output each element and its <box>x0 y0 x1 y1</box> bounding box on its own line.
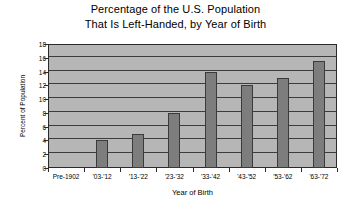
chart-title-line-2: That Is Left-Handed, by Year of Birth <box>0 17 351 32</box>
x-axis-tick-label: '03-'12 <box>93 173 112 181</box>
y-axis-tick-label: 12 <box>6 82 46 89</box>
bar-series <box>48 44 337 168</box>
y-axis-tick-label: 14 <box>6 69 46 76</box>
x-axis-tick-label: '53-'62 <box>273 173 292 181</box>
bar-slot <box>84 44 120 168</box>
bar[interactable] <box>313 61 325 168</box>
bar[interactable] <box>205 72 217 168</box>
bar-slot <box>48 44 84 168</box>
x-axis-title: Year of Birth <box>48 188 337 198</box>
chart-title-line-1: Percentage of the U.S. Population <box>0 2 351 17</box>
x-axis-tick-mark <box>337 168 338 172</box>
x-axis-tick-label: '63-'72 <box>309 173 328 181</box>
x-axis-tick-mark <box>120 168 121 172</box>
y-axis-title: Percent of Population <box>18 44 28 168</box>
x-axis-tick-mark <box>265 168 266 172</box>
x-axis-tick-mark <box>193 168 194 172</box>
y-axis-tick-label: 8 <box>6 110 46 117</box>
chart-container: Percentage of the U.S. Population That I… <box>0 0 351 206</box>
bar-slot <box>229 44 265 168</box>
y-axis-tick-label: 6 <box>6 124 46 131</box>
x-axis-tick-mark <box>48 168 49 172</box>
y-axis-tick-label: 2 <box>6 151 46 158</box>
y-axis-tick-label: 0 <box>6 165 46 172</box>
x-axis-tick-label: '23-'32 <box>165 173 184 181</box>
x-axis-tick-label: '43-'52 <box>237 173 256 181</box>
chart-title: Percentage of the U.S. Population That I… <box>0 2 351 32</box>
x-axis-tick-mark <box>229 168 230 172</box>
y-axis-tick-label: 16 <box>6 55 46 62</box>
y-axis-tick-label: 4 <box>6 137 46 144</box>
x-axis-tick-label: Pre-1902 <box>53 173 80 181</box>
y-axis-tick-label: 18 <box>6 41 46 48</box>
bar[interactable] <box>241 85 253 168</box>
x-axis-tick-label: '33-'42 <box>201 173 220 181</box>
bar-slot <box>265 44 301 168</box>
bar-slot <box>193 44 229 168</box>
bar[interactable] <box>168 113 180 168</box>
x-axis-tick-mark <box>156 168 157 172</box>
bar[interactable] <box>277 78 289 168</box>
bar[interactable] <box>96 140 108 168</box>
bar[interactable] <box>132 134 144 168</box>
bar-slot <box>120 44 156 168</box>
x-axis-tick-mark <box>301 168 302 172</box>
x-axis-tick-mark <box>84 168 85 172</box>
bar-slot <box>156 44 192 168</box>
bar-slot <box>301 44 337 168</box>
y-axis-tick-label: 10 <box>6 96 46 103</box>
x-axis-tick-label: '13-'22 <box>129 173 148 181</box>
